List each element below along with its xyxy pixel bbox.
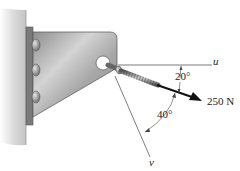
bracket xyxy=(33,32,117,117)
diagram-canvas xyxy=(0,0,240,171)
bolts xyxy=(32,39,40,103)
v-axis-label: v xyxy=(149,157,154,168)
force-magnitude-label: 250 N xyxy=(207,96,234,107)
u-axis-label: u xyxy=(213,56,219,67)
angle-label-40: 40° xyxy=(157,109,172,120)
v-axis-line xyxy=(115,76,150,157)
back-plate xyxy=(26,27,33,125)
angle-label-20: 20° xyxy=(175,71,190,82)
eye-bolt xyxy=(108,65,158,85)
wall xyxy=(0,8,26,145)
